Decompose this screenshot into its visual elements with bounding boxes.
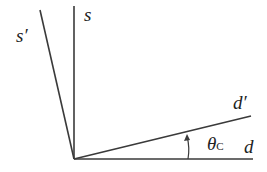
label-d: d [244, 137, 254, 156]
label-s: s [84, 5, 91, 24]
label-theta-c: θC [207, 134, 224, 153]
arrowhead-icon [184, 134, 190, 141]
theta-symbol: θ [207, 133, 216, 154]
s-prime-axis-line [40, 10, 74, 159]
theta-subscript: C [216, 140, 223, 152]
d-prime-axis-line [74, 116, 251, 159]
label-d-prime: d′ [233, 93, 247, 112]
cabibbo-rotation-diagram: s s′ d′ d θC [0, 0, 267, 172]
axes-drawing [0, 0, 267, 172]
label-s-prime: s′ [16, 26, 28, 45]
